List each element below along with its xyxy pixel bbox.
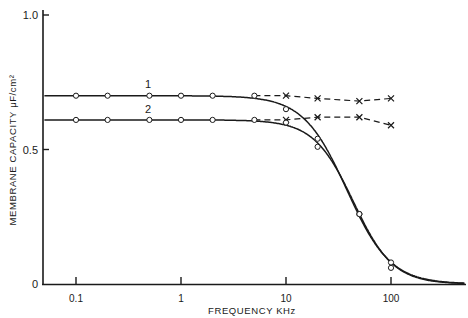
circle-marker <box>357 211 362 216</box>
capacity-frequency-chart: 00.51.0 0.1110100 12 <box>0 0 468 318</box>
y-tick-label: 0.5 <box>23 144 38 156</box>
y-ticks: 00.51.0 <box>23 9 49 290</box>
curve-label: 2 <box>145 103 151 115</box>
circle-marker <box>252 117 257 122</box>
circle-marker <box>147 117 152 122</box>
circle-marker <box>147 93 152 98</box>
y-tick-label: 1.0 <box>23 9 38 21</box>
circle-marker <box>105 93 110 98</box>
circle-marker <box>388 260 393 265</box>
circle-marker <box>252 93 257 98</box>
axes <box>42 10 466 285</box>
circle-marker <box>178 117 183 122</box>
circle-marker <box>73 117 78 122</box>
curve-label: 1 <box>145 78 151 90</box>
y-axis-label-text: MEMBRANE CAPACITY μF/cm² <box>7 75 18 226</box>
circle-marker <box>388 265 393 270</box>
curve-1 <box>44 96 464 284</box>
circle-marker <box>178 93 183 98</box>
circle-marker <box>73 93 78 98</box>
curve-2 <box>44 120 464 284</box>
dashed-line-2 <box>254 117 391 125</box>
x-axis-label: FREQUENCY KHz <box>0 300 468 318</box>
series-group <box>44 93 464 284</box>
x-axis-label-text: FREQUENCY KHz <box>208 305 296 316</box>
circle-marker <box>283 107 288 112</box>
circle-marker <box>105 117 110 122</box>
circle-marker <box>210 93 215 98</box>
circle-marker <box>315 144 320 149</box>
circle-marker <box>315 136 320 141</box>
y-tick-label: 0 <box>32 278 38 290</box>
dashed-line-1 <box>254 96 391 101</box>
circle-marker <box>283 120 288 125</box>
y-axis-label: MEMBRANE CAPACITY μF/cm² <box>2 0 22 318</box>
circle-marker <box>210 117 215 122</box>
